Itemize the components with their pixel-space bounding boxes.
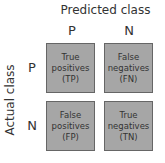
- cell-line: (TP): [62, 74, 79, 85]
- cell-line: True: [61, 52, 79, 63]
- cell-true-negatives: True negatives (TN): [104, 101, 153, 151]
- cell-false-positives: False positives (FP): [46, 101, 95, 151]
- column-label-n: N: [103, 23, 155, 38]
- cell-line: (FP): [62, 132, 79, 143]
- cell-line: positives: [52, 121, 90, 132]
- cell-line: False: [60, 110, 81, 121]
- cell-line: positives: [52, 63, 90, 74]
- cell-line: False: [118, 52, 139, 63]
- actual-class-axis-label: Actual class: [3, 60, 17, 140]
- cell-false-negatives: False negatives (FN): [104, 43, 153, 93]
- cell-line: negatives: [108, 63, 150, 74]
- predicted-class-title: Predicted class: [46, 3, 165, 17]
- cell-true-positives: True positives (TP): [46, 43, 95, 93]
- cell-line: (TN): [119, 132, 137, 143]
- cell-line: True: [119, 110, 137, 121]
- row-label-n: N: [24, 118, 40, 133]
- column-label-p: P: [46, 23, 98, 38]
- row-label-p: P: [24, 60, 40, 75]
- cell-line: negatives: [108, 121, 150, 132]
- cell-line: (FN): [120, 74, 138, 85]
